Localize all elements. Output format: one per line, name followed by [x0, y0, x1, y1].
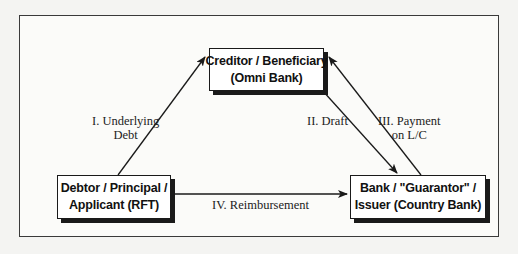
edge-label-i-line2: Debt: [92, 128, 159, 142]
edge-label-ii-line1: II. Draft: [307, 114, 348, 128]
node-bank-line1: Bank / "Guarantor" /: [360, 180, 476, 197]
node-debtor-line2: Applicant (RFT): [69, 197, 159, 214]
edge-label-underlying-debt: I. Underlying Debt: [92, 114, 159, 142]
edge-label-iv-line1: IV. Reimbursement: [212, 198, 309, 212]
node-bank-line2: Issuer (Country Bank): [355, 197, 481, 214]
node-creditor-beneficiary: Creditor / Beneficiary (Omni Bank): [209, 48, 324, 91]
edge-label-reimbursement: IV. Reimbursement: [212, 198, 309, 212]
node-bank-guarantor-issuer: Bank / "Guarantor" / Issuer (Country Ban…: [350, 175, 486, 219]
node-creditor-line2: (Omni Bank): [230, 70, 302, 87]
node-debtor-line1: Debtor / Principal /: [61, 180, 167, 197]
edge-label-payment-on-lc: III. Payment on L/C: [378, 114, 440, 142]
edge-label-iii-line2: on L/C: [378, 128, 440, 142]
edge-label-iii-line1: III. Payment: [378, 114, 440, 128]
node-debtor-principal-applicant: Debtor / Principal / Applicant (RFT): [57, 175, 171, 219]
edge-label-i-line1: I. Underlying: [92, 114, 159, 128]
node-creditor-line1: Creditor / Beneficiary: [205, 53, 327, 70]
edge-label-draft: II. Draft: [307, 114, 348, 128]
